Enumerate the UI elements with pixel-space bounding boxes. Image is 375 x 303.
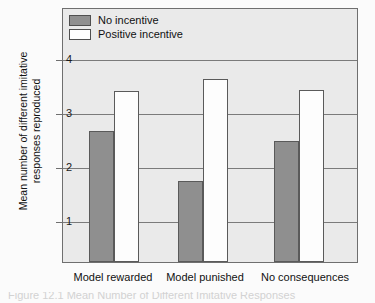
legend-label-positive-incentive: Positive incentive [98, 29, 183, 40]
figure-caption-text: Figure 12.1 Mean Number of Different Imi… [8, 292, 295, 302]
bar-model-punished-no-incentive [178, 181, 203, 262]
x-tick-label-model-rewarded: Model rewarded [63, 272, 163, 283]
legend-item-positive-incentive: Positive incentive [69, 29, 183, 40]
legend-swatch-positive-incentive [69, 29, 91, 40]
legend-swatch-no-incentive [69, 15, 91, 26]
legend-label-no-incentive: No incentive [98, 15, 159, 26]
bar-chart-figure: No incentive Positive incentive 4 3 2 1 … [0, 0, 375, 303]
legend: No incentive Positive incentive [69, 15, 183, 40]
plot-area: No incentive Positive incentive [62, 8, 358, 263]
y-axis-title: Mean number of different imitative respo… [17, 31, 43, 231]
gridline-4 [63, 60, 357, 61]
bar-model-rewarded-positive-incentive [114, 91, 139, 262]
bar-no-consequences-no-incentive [274, 141, 299, 262]
bar-model-rewarded-no-incentive [89, 131, 114, 262]
x-tick-label-no-consequences: No consequences [249, 272, 361, 283]
legend-item-no-incentive: No incentive [69, 15, 183, 26]
x-tick-label-model-punished: Model punished [155, 272, 255, 283]
bar-no-consequences-positive-incentive [299, 90, 324, 262]
figure-caption-clipped: Figure 12.1 Mean Number of Different Imi… [0, 292, 375, 303]
bar-model-punished-positive-incentive [203, 79, 228, 262]
